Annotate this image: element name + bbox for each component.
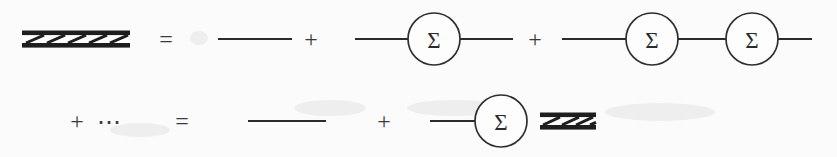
dyson-equation-figure: = + Σ + Σ Σ <box>0 0 837 157</box>
sigma-symbol: Σ <box>645 28 658 53</box>
operator-ellipsis: ⋯ <box>97 109 122 135</box>
operator-equals-row2: = <box>175 108 189 134</box>
operator-plus-row2-b: + <box>377 108 391 134</box>
operator-plus-row2-a: + <box>70 108 84 134</box>
self-energy-single[interactable]: Σ <box>355 13 513 65</box>
self-energy-double[interactable]: Σ Σ <box>562 13 812 65</box>
operator-equals-row1: = <box>159 26 173 52</box>
sigma-symbol: Σ <box>494 110 507 135</box>
row-1: = + Σ + Σ Σ <box>22 13 812 65</box>
operator-plus-row1-b: + <box>528 26 542 52</box>
sigma-symbol: Σ <box>427 28 440 53</box>
dressed-propagator[interactable] <box>22 31 130 48</box>
dressed-propagator-tail <box>540 113 596 130</box>
operator-plus-row1-a: + <box>304 26 318 52</box>
sigma-symbol: Σ <box>745 28 758 53</box>
diagram-canvas: = + Σ + Σ Σ <box>0 0 837 157</box>
